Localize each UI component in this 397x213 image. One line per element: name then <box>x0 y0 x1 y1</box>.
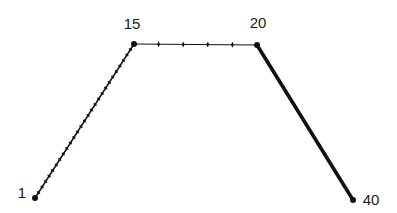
point-label-15: 15 <box>124 15 141 32</box>
point-marker-20 <box>254 42 260 48</box>
tick-mark <box>157 41 160 47</box>
segments-group <box>35 41 353 200</box>
tick-mark <box>206 42 209 48</box>
segment-15-20 <box>134 44 257 45</box>
point-marker-40 <box>350 197 356 203</box>
tick-mark <box>231 42 234 48</box>
point-label-1: 1 <box>18 184 26 201</box>
segment-20-40 <box>257 45 353 200</box>
points-group <box>32 41 356 203</box>
path-diagram: 1 15 20 40 <box>0 0 397 213</box>
tick-mark <box>182 41 185 47</box>
point-label-40: 40 <box>363 191 380 208</box>
labels-group: 1 15 20 40 <box>18 14 380 208</box>
point-label-20: 20 <box>250 14 267 31</box>
point-marker-15 <box>131 41 137 47</box>
point-marker-1 <box>32 195 38 201</box>
